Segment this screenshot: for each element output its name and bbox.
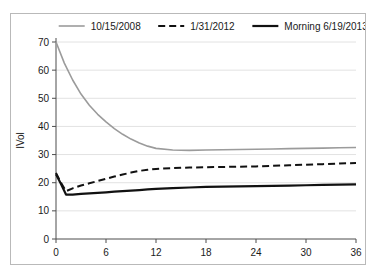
x-tick-label: 36 (350, 247, 362, 258)
y-tick-label: 50 (38, 93, 50, 104)
x-tick-label: 12 (150, 247, 162, 258)
x-axis-title: Time in Months (172, 263, 240, 264)
y-tick-label: 20 (38, 177, 50, 188)
x-tick-label: 24 (250, 247, 262, 258)
y-tick-label: 40 (38, 121, 50, 132)
screenshot-root: 010203040506070061218243036Time in Month… (0, 0, 377, 280)
legend-label-0: 10/15/2008 (91, 21, 141, 32)
x-tick-label: 30 (300, 247, 312, 258)
series-line-0 (56, 42, 356, 150)
x-tick-label: 6 (103, 247, 109, 258)
series-line-2 (56, 174, 356, 194)
legend-label-2: Morning 6/19/2013 (284, 21, 365, 32)
legend-label-1: 1/31/2012 (190, 21, 235, 32)
y-tick-label: 10 (38, 205, 50, 216)
line-chart: 010203040506070061218243036Time in Month… (11, 14, 365, 264)
chart-frame: 010203040506070061218243036Time in Month… (10, 13, 366, 265)
y-axis-title: IVol (15, 132, 26, 149)
y-tick-label: 30 (38, 149, 50, 160)
x-tick-label: 0 (53, 247, 59, 258)
y-tick-label: 60 (38, 65, 50, 76)
y-tick-label: 70 (38, 37, 50, 48)
x-tick-label: 18 (200, 247, 212, 258)
y-tick-label: 0 (43, 234, 49, 245)
